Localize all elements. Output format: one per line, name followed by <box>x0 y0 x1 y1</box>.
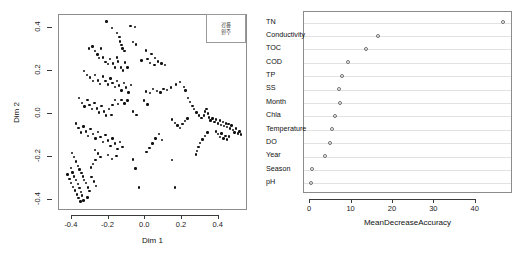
scatter-y-tick <box>47 113 52 114</box>
scatter-point <box>116 56 118 58</box>
scatter-point <box>119 141 121 143</box>
scatter-point <box>222 137 224 139</box>
scatter-point <box>73 175 75 177</box>
scatter-point <box>77 127 79 129</box>
scatter-point <box>104 134 106 136</box>
legend-entry-1: 강릉 <box>221 22 232 29</box>
scatter-point <box>132 110 134 112</box>
legend-entry-2: 원주 <box>221 29 232 36</box>
scatter-point <box>130 84 132 86</box>
scatter-point <box>90 176 92 178</box>
scatter-point <box>97 152 99 154</box>
scatter-legend[interactable]: 강릉 원주 <box>206 14 246 43</box>
scatter-point <box>213 121 215 123</box>
scatter-point <box>112 62 114 64</box>
scatter-point <box>151 142 153 144</box>
scatter-point <box>74 189 76 191</box>
scatter-point <box>160 62 162 64</box>
scatter-point <box>88 104 90 106</box>
scatter-point <box>228 135 230 137</box>
scatter-point <box>85 130 87 132</box>
scatter-y-ticklabel: -0.2 <box>33 146 42 166</box>
scatter-point <box>149 92 151 94</box>
scatter-point <box>179 127 181 129</box>
scatter-point <box>91 45 93 47</box>
scatter-point <box>124 61 126 63</box>
scatter-point <box>158 133 160 135</box>
figure-canvas: 강릉 원주 -0.4-0.20.00.20.4-0.4-0.20.00.20.4… <box>0 0 528 262</box>
dotchart-category-label: Season <box>266 165 290 173</box>
scatter-y-tick <box>47 70 52 71</box>
scatter-point <box>66 173 68 175</box>
scatter-point <box>200 117 202 119</box>
scatter-point <box>154 137 156 139</box>
scatter-point <box>120 99 122 101</box>
scatter-point <box>114 66 116 68</box>
scatter-point <box>77 165 79 167</box>
scatter-point <box>109 145 111 147</box>
scatter-point <box>175 83 177 85</box>
scatter-y-ticklabel: 0.4 <box>33 16 42 36</box>
scatter-point <box>215 118 217 120</box>
scatter-x-ticklabel: 0.0 <box>130 220 158 229</box>
scatter-point <box>92 163 94 165</box>
scatter-point <box>90 166 92 168</box>
scatter-point <box>114 86 116 88</box>
scatter-point <box>132 158 134 160</box>
scatter-y-ticklabel: 0.0 <box>33 103 42 123</box>
dotchart-category-label: Month <box>266 98 286 106</box>
scatter-point <box>107 83 109 85</box>
scatter-point <box>89 128 91 130</box>
scatter-point <box>81 102 83 104</box>
dotchart-x-tick <box>351 199 352 203</box>
dotchart-point <box>346 60 350 64</box>
dotchart-plot-frame <box>303 11 512 193</box>
scatter-point <box>114 142 116 144</box>
scatter-point <box>83 70 85 72</box>
scatter-point <box>73 156 75 158</box>
scatter-point <box>199 142 201 144</box>
scatter-point <box>91 108 93 110</box>
scatter-point <box>111 104 113 106</box>
scatter-point <box>127 91 129 93</box>
scatter-point <box>88 47 90 49</box>
scatter-point <box>208 116 210 118</box>
scatter-point <box>85 182 87 184</box>
scatter-point <box>140 59 142 61</box>
scatter-point <box>145 49 147 51</box>
scatter-point <box>107 63 109 65</box>
scatter-point <box>75 122 77 124</box>
scatter-point <box>80 191 82 193</box>
scatter-point <box>220 124 222 126</box>
dotchart-category-label: Conductivity <box>266 31 305 39</box>
scatter-point <box>219 136 221 138</box>
scatter-point <box>102 75 104 77</box>
scatter-point <box>68 178 70 180</box>
scatter-point <box>103 110 105 112</box>
scatter-point <box>87 186 89 188</box>
scatter-point <box>129 25 131 27</box>
dotchart-point <box>376 34 380 38</box>
dotchart-point <box>310 167 314 171</box>
scatter-point <box>96 53 98 55</box>
scatter-point <box>161 139 163 141</box>
scatter-point <box>77 197 79 199</box>
scatter-point <box>138 186 140 188</box>
scatter-point <box>88 190 90 192</box>
scatter-point <box>87 135 89 137</box>
dotchart-point <box>337 87 341 91</box>
scatter-point <box>102 141 104 143</box>
dotchart-category-label: Temperature <box>266 125 306 133</box>
scatter-point <box>230 124 232 126</box>
scatter-y-tick <box>47 199 52 200</box>
scatter-point <box>233 131 235 133</box>
scatter-point <box>86 99 88 101</box>
scatter-point <box>99 136 101 138</box>
scatter-x-ticklabel: -0.4 <box>57 220 85 229</box>
scatter-point <box>159 91 161 93</box>
dotchart-point <box>333 114 337 118</box>
dotchart-point <box>364 47 368 51</box>
dotchart-x-tick <box>433 199 434 203</box>
scatter-point <box>81 194 83 196</box>
dotchart-x-ticklabel: 40 <box>461 204 489 213</box>
